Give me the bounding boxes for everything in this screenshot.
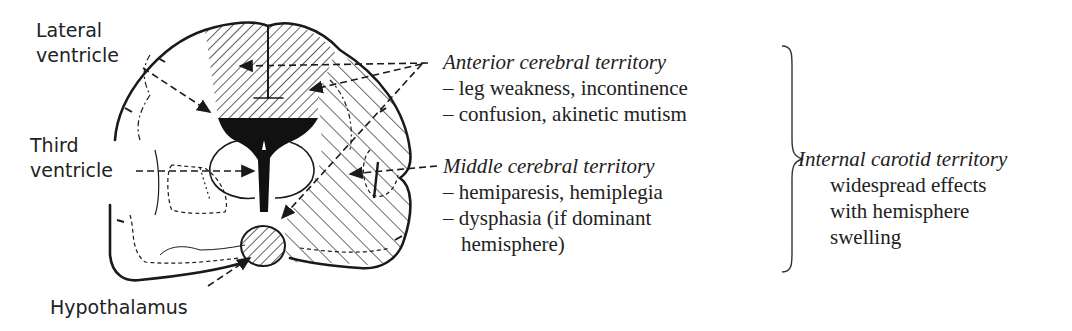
label-lateral-ventricle-line1: Lateral: [36, 18, 119, 43]
internal-carotid-effect-1: widespread effects: [798, 172, 1007, 198]
label-third-ventricle-line2: ventricle: [30, 158, 113, 183]
middle-cerebral-block: Middle cerebral territory – hemiparesis,…: [443, 153, 663, 257]
anterior-cerebral-title: Anterior cerebral territory: [443, 49, 688, 75]
anterior-cerebral-territory-region: [205, 22, 335, 118]
anterior-effect-1: – leg weakness, incontinence: [443, 75, 688, 101]
internal-carotid-effect-2: with hemisphere: [798, 198, 1007, 224]
label-lateral-ventricle: Lateral ventricle: [36, 18, 119, 68]
internal-carotid-block: Internal carotid territory widespread ef…: [798, 146, 1007, 250]
internal-carotid-effect-3: swelling: [798, 224, 1007, 250]
internal-carotid-title: Internal carotid territory: [798, 146, 1007, 172]
anterior-cerebral-block: Anterior cerebral territory – leg weakne…: [443, 49, 688, 127]
label-hypothalamus: Hypothalamus: [50, 295, 188, 320]
middle-effect-2: – dysphasia (if dominant: [443, 205, 663, 231]
middle-effect-1: – hemiparesis, hemiplegia: [443, 179, 663, 205]
label-third-ventricle-line1: Third: [30, 133, 113, 158]
anterior-effect-2: – confusion, akinetic mutism: [443, 101, 688, 127]
middle-effect-3: hemisphere): [443, 231, 663, 257]
label-third-ventricle: Third ventricle: [30, 133, 113, 183]
middle-cerebral-title: Middle cerebral territory: [443, 153, 663, 179]
label-lateral-ventricle-line2: ventricle: [36, 43, 119, 68]
